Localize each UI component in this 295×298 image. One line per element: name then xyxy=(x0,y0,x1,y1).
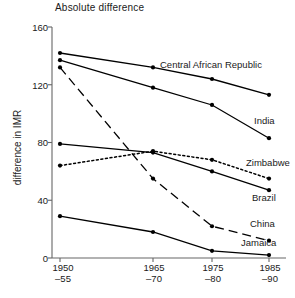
series-line-brazil xyxy=(60,144,269,190)
data-point xyxy=(210,158,214,162)
data-point xyxy=(151,149,155,153)
chart-container: Absolute difference difference in IMR 16… xyxy=(0,0,295,298)
series-line-zimbabwe xyxy=(60,151,269,178)
data-point xyxy=(58,164,62,168)
data-point xyxy=(267,253,271,257)
data-point xyxy=(210,224,214,228)
data-point xyxy=(210,169,214,173)
plot-area xyxy=(0,0,295,298)
axis-lines xyxy=(52,27,286,258)
data-point xyxy=(58,142,62,146)
data-point xyxy=(151,86,155,90)
series-line-china xyxy=(60,67,269,240)
data-point xyxy=(58,214,62,218)
data-point xyxy=(151,65,155,69)
data-point xyxy=(267,239,271,243)
series-line-india xyxy=(60,60,269,138)
data-point xyxy=(210,249,214,253)
data-point xyxy=(58,51,62,55)
data-point xyxy=(267,188,271,192)
data-point xyxy=(267,136,271,140)
series-line-central-african-republic xyxy=(60,53,269,95)
data-point xyxy=(151,176,155,180)
data-point xyxy=(58,58,62,62)
series-line-jamaica xyxy=(60,216,269,255)
data-point xyxy=(210,77,214,81)
data-point xyxy=(210,103,214,107)
data-point xyxy=(267,93,271,97)
data-point xyxy=(58,65,62,69)
data-point xyxy=(151,230,155,234)
data-point xyxy=(267,176,271,180)
